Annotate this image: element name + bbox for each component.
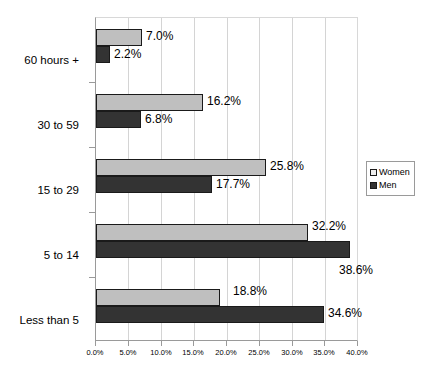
gridline (292, 18, 293, 340)
legend-swatch-women-icon (370, 169, 377, 176)
bar-men-0 (96, 46, 110, 63)
data-label-men-3: 38.6% (339, 264, 373, 277)
bar-men-2 (96, 176, 212, 193)
x-axis-tick (128, 341, 129, 346)
bar-men-3 (96, 241, 350, 258)
x-axis-tick (324, 341, 325, 346)
x-axis-tick (95, 341, 96, 346)
bar-women-4 (96, 289, 220, 306)
x-axis-tick (193, 341, 194, 346)
bar-women-3 (96, 224, 308, 241)
x-axis-tick (259, 341, 260, 346)
bar-women-1 (96, 94, 203, 111)
x-axis-tick (226, 341, 227, 346)
y-axis-label-2: 15 to 29 (0, 184, 79, 196)
legend-item-women: Women (370, 166, 410, 178)
legend-label-men: Men (379, 180, 397, 190)
y-axis-category-labels: 60 hours + 30 to 59 15 to 29 5 to 14 Les… (0, 17, 87, 341)
gridline (325, 18, 326, 340)
y-axis-label-4: Less than 5 (0, 314, 79, 326)
data-label-men-1: 6.8% (145, 113, 172, 126)
data-label-women-1: 16.2% (207, 95, 241, 108)
chart-legend: Women Men (366, 161, 415, 196)
plot-area: 7.0% 2.2% 16.2% 6.8% 25.8% 17.7% 32.2% 3… (95, 17, 358, 341)
bar-chart: 60 hours + 30 to 59 15 to 29 5 to 14 Les… (0, 0, 436, 379)
data-label-men-2: 17.7% (216, 178, 250, 191)
bar-men-4 (96, 306, 324, 323)
data-label-women-4: 18.8% (233, 285, 267, 298)
bar-women-2 (96, 159, 266, 176)
data-label-women-2: 25.8% (270, 160, 304, 173)
x-axis-tick (357, 341, 358, 346)
legend-item-men: Men (370, 179, 410, 191)
bar-men-1 (96, 111, 141, 128)
y-axis-label-0: 60 hours + (0, 54, 79, 66)
legend-swatch-men-icon (370, 182, 377, 189)
data-label-women-0: 7.0% (146, 30, 173, 43)
data-label-women-3: 32.2% (312, 220, 346, 233)
x-axis-tick (292, 341, 293, 346)
y-axis-label-1: 30 to 59 (0, 119, 79, 131)
legend-label-women: Women (379, 167, 410, 177)
x-axis-label-8: 40.0% (337, 348, 377, 357)
data-label-men-4: 34.6% (328, 307, 362, 320)
bar-women-0 (96, 29, 142, 46)
data-label-men-0: 2.2% (114, 48, 141, 61)
x-axis-tick (161, 341, 162, 346)
y-axis-label-3: 5 to 14 (0, 249, 79, 261)
